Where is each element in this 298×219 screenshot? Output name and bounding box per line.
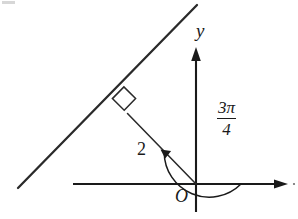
origin-label: O xyxy=(175,187,188,205)
angle-denominator: 4 xyxy=(217,120,236,138)
x-axis-end-dot xyxy=(293,183,295,185)
radius-length-label: 2 xyxy=(137,140,146,158)
geometry-figure: y O 2 3π 4 xyxy=(0,0,298,219)
fraction-bar xyxy=(217,118,236,119)
diagram-canvas xyxy=(0,0,298,219)
right-angle-marker xyxy=(112,87,135,110)
x-axis-arrowhead xyxy=(274,179,288,188)
y-axis xyxy=(191,47,201,212)
angle-numerator: 3π xyxy=(217,99,236,117)
y-axis-label: y xyxy=(196,21,204,40)
angle-fraction: 3π 4 xyxy=(217,99,236,139)
angle-label: 3π 4 xyxy=(217,99,236,139)
y-axis-arrowhead xyxy=(191,47,201,61)
angle-arc xyxy=(161,150,242,198)
tangent-line xyxy=(18,5,197,188)
